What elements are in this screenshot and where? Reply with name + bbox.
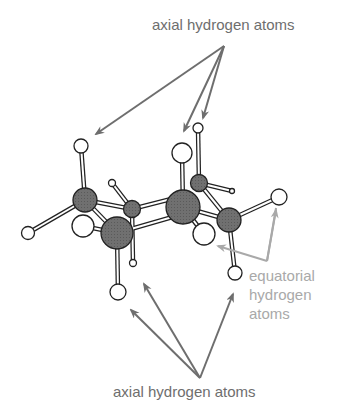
hydrogen-atom (228, 266, 242, 280)
hydrogen-atom (271, 189, 287, 205)
equatorial-label: equatorial hydrogen atoms (249, 266, 315, 323)
hydrogen-atom (110, 284, 126, 300)
carbon-atom (101, 217, 133, 249)
cyclohexane-molecule (0, 0, 350, 413)
hydrogen-atom (230, 189, 235, 194)
hydrogen-atom (193, 123, 203, 133)
hydrogen-atom (130, 260, 137, 267)
equatorial-label-line3: atoms (249, 304, 315, 323)
diagram-canvas: axial hydrogen atoms equatorial hydrogen… (0, 0, 350, 413)
carbon-atom (166, 190, 200, 224)
hydrogen-atom (22, 227, 35, 240)
hydrogen-atom (72, 215, 94, 237)
hydrogen-atom (172, 143, 192, 163)
axial-top-arrows (96, 46, 224, 134)
axial-bottom-arrows (131, 284, 233, 378)
hydrogen-atom (74, 139, 88, 153)
bonds (28, 128, 279, 292)
carbon-atom (73, 188, 97, 212)
axial-top-label: axial hydrogen atoms (152, 16, 295, 33)
hydrogen-atom (193, 223, 215, 245)
equatorial-label-line2: hydrogen (249, 285, 315, 304)
carbon-atom (217, 208, 241, 232)
carbon-atom (124, 201, 141, 218)
hydrogen-atom (109, 180, 116, 187)
axial-bottom-label: axial hydrogen atoms (113, 383, 256, 400)
carbon-atom (191, 175, 208, 192)
equatorial-label-line1: equatorial (249, 266, 315, 285)
